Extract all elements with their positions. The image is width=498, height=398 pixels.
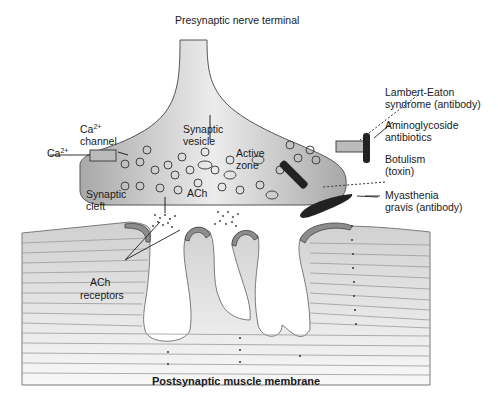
footer-label: Postsynaptic muscle membrane <box>152 375 320 387</box>
aminoglycoside-label-2: antibiotics <box>385 131 432 143</box>
title-label: Presynaptic nerve terminal <box>175 14 299 26</box>
synaptic-vesicle-label-1: Synaptic <box>183 123 223 135</box>
ca-ion-sup: 2+ <box>60 147 68 154</box>
botulism-label-1: Botulism <box>385 153 425 165</box>
ca-sup: 2+ <box>93 123 101 130</box>
ca-channel <box>90 150 116 161</box>
ach-molecules <box>152 211 239 228</box>
aminoglycoside-label-1: Aminoglycoside <box>385 119 459 131</box>
synaptic-cleft-label-1: Synaptic <box>86 188 126 200</box>
channel-label: channel <box>80 135 117 147</box>
ach-label: ACh <box>187 187 207 199</box>
active-zone-label-1: Active <box>236 147 265 159</box>
ca-text: Ca <box>80 123 93 135</box>
botulism-label-2: (toxin) <box>385 165 414 177</box>
synaptic-vesicle-label-2: vesicle <box>183 135 215 147</box>
ach-receptors-label-2: receptors <box>80 289 124 301</box>
lambert-eaton-label-2: syndrome (antibody) <box>385 98 481 110</box>
aminoglycoside-blocker <box>363 133 370 163</box>
ca-ion-text: Ca <box>47 147 60 159</box>
synaptic-cleft-label-2: cleft <box>86 200 105 212</box>
myasthenia-label-1: Myasthenia <box>385 189 439 201</box>
ach-receptors-label-1: ACh <box>90 276 110 288</box>
calcium-channel-right <box>336 141 364 152</box>
lambert-eaton-label-1: Lambert-Eaton <box>385 86 454 98</box>
myasthenia-label-2: gravis (antibody) <box>385 201 463 213</box>
active-zone-label-2: zone <box>236 159 259 171</box>
ca-ion-label: Ca2+ <box>47 147 68 159</box>
ca-channel-label: Ca2+ <box>80 123 101 135</box>
